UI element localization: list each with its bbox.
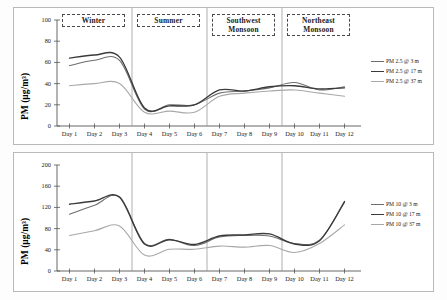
legend-label: PM 10 @ 17 m <box>386 211 420 217</box>
legend-label: PM 10 @ 3 m <box>386 201 418 207</box>
season-band-summer: Summer <box>137 14 200 27</box>
legend-swatch-icon <box>371 71 384 72</box>
legend-swatch-icon <box>371 214 384 215</box>
legend-item: PM 2.5 @ 37 m <box>371 76 422 86</box>
season-label: Winter <box>82 16 106 25</box>
season-band-winter: Winter <box>62 14 125 27</box>
y-tick-label: 60 <box>14 58 51 65</box>
legend-swatch-icon <box>371 61 384 62</box>
x-tick-label: Day 12 <box>329 275 361 282</box>
legend-label: PM 2.5 @ 3 m <box>386 58 419 64</box>
season-label: NortheastMonsoon <box>302 16 335 34</box>
legend-item: PM 10 @ 3 m <box>371 199 420 209</box>
season-band-southwest-monsoon: SouthwestMonsoon <box>212 14 275 36</box>
legend-pm10: PM 10 @ 3 mPM 10 @ 17 mPM 10 @ 37 m <box>371 199 420 229</box>
chart-panel-pm10: PM (µg/m³) PM 10 @ 3 mPM 10 @ 17 mPM 10 … <box>13 152 434 292</box>
figure-root: PM (µg/m³) PM 2.5 @ 3 mPM 2.5 @ 17 mPM 2… <box>0 0 447 300</box>
y-tick-label: 0 <box>14 122 51 129</box>
legend-pm25: PM 2.5 @ 3 mPM 2.5 @ 17 mPM 2.5 @ 37 m <box>371 56 422 86</box>
y-tick-label: 200 <box>14 161 51 168</box>
legend-item: PM 2.5 @ 3 m <box>371 56 422 66</box>
y-tick-label: 160 <box>14 182 51 189</box>
season-label: Summer <box>154 16 182 25</box>
y-tick-label: 20 <box>14 101 51 108</box>
y-tick-label: 100 <box>14 16 51 23</box>
legend-label: PM 2.5 @ 37 m <box>386 78 422 84</box>
season-band-northeast-monsoon: NortheastMonsoon <box>287 14 350 36</box>
legend-label: PM 10 @ 37 m <box>386 221 420 227</box>
legend-swatch-icon <box>371 224 384 225</box>
legend-item: PM 10 @ 17 m <box>371 209 420 219</box>
y-tick-label: 0 <box>14 267 51 274</box>
x-tick-label: Day 12 <box>329 130 361 137</box>
legend-item: PM 2.5 @ 17 m <box>371 66 422 76</box>
y-tick-label: 80 <box>14 225 51 232</box>
y-tick-label: 120 <box>14 203 51 210</box>
y-tick-label: 80 <box>14 37 51 44</box>
y-tick-label: 40 <box>14 80 51 87</box>
y-tick-label: 40 <box>14 246 51 253</box>
season-label: SouthwestMonsoon <box>226 16 260 34</box>
legend-label: PM 2.5 @ 17 m <box>386 68 422 74</box>
legend-swatch-icon <box>371 81 384 82</box>
legend-item: PM 10 @ 37 m <box>371 219 420 229</box>
legend-swatch-icon <box>371 204 384 205</box>
